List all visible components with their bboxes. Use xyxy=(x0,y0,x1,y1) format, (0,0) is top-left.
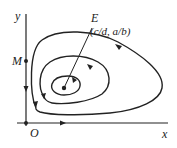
x-axis-right-arrow-icon xyxy=(60,121,66,126)
y-axis-label: y xyxy=(15,10,20,22)
point-M xyxy=(24,59,28,63)
outer-orbit-arrow-icon xyxy=(115,44,122,50)
y-axis-down-arrow-icon xyxy=(24,86,29,92)
diagram-svg xyxy=(0,0,177,148)
origin-label: O xyxy=(30,127,39,139)
phase-portrait-diagram: y x O M E (c/d, a/b) xyxy=(0,0,177,148)
inner-orbit xyxy=(52,76,81,95)
middle-orbit-arrow-icon xyxy=(87,64,93,70)
M-label: M xyxy=(12,55,22,67)
point-origin xyxy=(24,121,28,125)
x-axis-label: x xyxy=(162,128,167,140)
E-coords-label: (c/d, a/b) xyxy=(90,26,130,37)
E-label: E xyxy=(91,12,98,24)
outer-orbit-left-arrow-icon xyxy=(33,101,38,108)
